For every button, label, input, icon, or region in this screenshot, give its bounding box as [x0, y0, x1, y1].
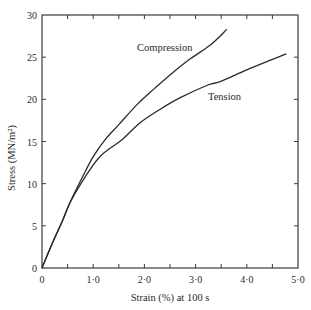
- y-tick-label: 30: [27, 10, 37, 21]
- x-tick-label: 5·0: [291, 274, 304, 285]
- y-tick-label: 0: [32, 263, 37, 274]
- x-tick-label: 3·0: [189, 274, 202, 285]
- compression-curve-label: Compression: [137, 42, 193, 53]
- x-axis-title: Strain (%) at 100 s: [131, 292, 210, 304]
- tension-curve-label: Tension: [208, 91, 242, 102]
- x-tick-label: 4·0: [240, 274, 253, 285]
- y-tick-label: 20: [27, 94, 37, 105]
- y-tick-label: 5: [32, 221, 37, 232]
- y-axis-title: Stress (MN/m²): [6, 125, 18, 191]
- y-tick-label: 25: [27, 52, 37, 63]
- x-tick-label: 1·0: [87, 274, 100, 285]
- tension-curve: [42, 54, 286, 268]
- chart-canvas: 01·02·03·04·05·0051015202530 Strain (%) …: [0, 0, 311, 310]
- compression-curve: [42, 29, 227, 268]
- data-series: [42, 29, 286, 268]
- x-tick-label: 2·0: [138, 274, 151, 285]
- y-tick-label: 10: [27, 179, 37, 190]
- x-tick-label: 0: [40, 274, 45, 285]
- stress-strain-chart: 01·02·03·04·05·0051015202530 Strain (%) …: [0, 0, 311, 310]
- y-tick-label: 15: [27, 137, 37, 148]
